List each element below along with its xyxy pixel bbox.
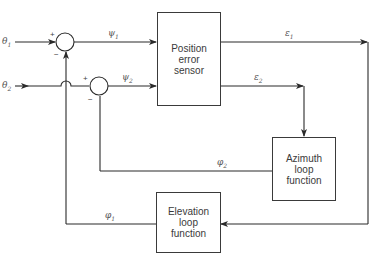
block-label-line: loop bbox=[179, 217, 198, 228]
block-label-line: sensor bbox=[174, 65, 204, 76]
block-label-line: loop bbox=[295, 164, 314, 175]
position-error-sensor-block: Position error sensor bbox=[157, 12, 221, 106]
block-label-line: Position bbox=[171, 43, 207, 54]
sum2-plus-sign: + bbox=[83, 74, 88, 83]
azimuth-loop-function-block: Azimuth loop function bbox=[272, 137, 336, 201]
sum1-minus-sign: − bbox=[54, 50, 59, 59]
psi1-label: ψ1 bbox=[108, 28, 119, 40]
block-label-line: Azimuth bbox=[286, 153, 322, 164]
phi2-label: φ2 bbox=[217, 157, 227, 169]
block-label-line: function bbox=[171, 228, 206, 239]
theta2-label: θ2 bbox=[2, 80, 11, 92]
block-label-line: function bbox=[286, 175, 321, 186]
block-label-line: Elevation bbox=[168, 206, 209, 217]
psi2-label: ψ2 bbox=[122, 72, 133, 84]
eps1-label: ε1 bbox=[285, 28, 294, 40]
eps2-label: ε2 bbox=[254, 72, 263, 84]
sum1-plus-sign: + bbox=[50, 30, 55, 39]
elevation-loop-function-block: Elevation loop function bbox=[156, 192, 221, 253]
phi1-label: φ1 bbox=[105, 210, 115, 222]
block-label-line: error bbox=[178, 54, 199, 65]
sum2-minus-sign: − bbox=[88, 95, 93, 104]
theta1-label: θ1 bbox=[2, 36, 11, 48]
